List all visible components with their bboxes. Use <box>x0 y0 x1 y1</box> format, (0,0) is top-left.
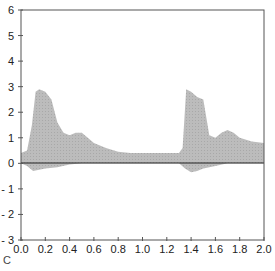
y-axis: 6543210- 1- 2- 3 <box>1 4 23 246</box>
y-tick-label: 4 <box>8 55 14 67</box>
x-tick-label: 0.4 <box>62 243 77 255</box>
y-tick-label: - 3 <box>1 234 14 246</box>
y-tick-label: 5 <box>8 30 14 42</box>
y-tick-label: 6 <box>8 4 14 16</box>
y-tick-label: 0 <box>8 157 14 169</box>
y-tick-label: 3 <box>8 81 14 93</box>
x-tick-label: 0.2 <box>38 243 53 255</box>
x-tick-label: 0.0 <box>13 243 28 255</box>
x-tick-label: 1.2 <box>159 243 174 255</box>
shaded-area <box>21 89 264 172</box>
panel-label: C <box>3 254 11 266</box>
x-tick-label: 2.0 <box>256 243 271 255</box>
y-tick-label: - 1 <box>1 183 14 195</box>
x-tick-label: 0.6 <box>86 243 101 255</box>
x-tick-label: 1.8 <box>232 243 247 255</box>
x-tick-label: 1.4 <box>183 243 198 255</box>
y-tick-label: 2 <box>8 106 14 118</box>
x-tick-label: 1.0 <box>135 243 150 255</box>
x-tick-label: 1.6 <box>208 243 223 255</box>
envelope-area <box>21 89 264 172</box>
chart: 6543210- 1- 2- 3 0.00.20.40.60.81.01.21.… <box>0 0 275 271</box>
y-tick-label: 1 <box>8 132 14 144</box>
x-tick-label: 0.8 <box>111 243 126 255</box>
y-tick-label: - 2 <box>1 208 14 220</box>
